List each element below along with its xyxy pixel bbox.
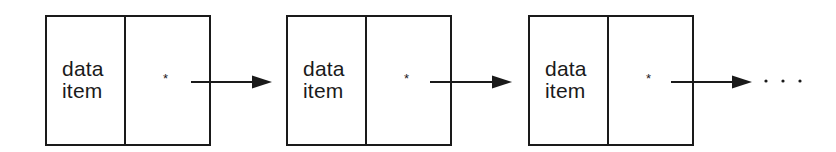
arrow-icon — [671, 76, 752, 89]
ellipsis-icon — [764, 79, 801, 82]
linked-list-diagram: data item * data item * data item * — [0, 0, 836, 152]
arrow-icon — [191, 76, 272, 89]
pointer-arrows — [0, 0, 836, 152]
arrow-icon — [430, 76, 512, 89]
